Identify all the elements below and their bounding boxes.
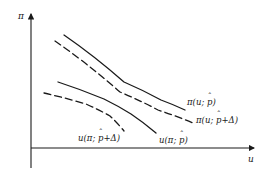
label-u-baseline-hat-accent: ˆ	[180, 131, 184, 139]
x-axis-label: u	[248, 155, 254, 164]
label-pi-shifted-hat-accent: ˆ	[217, 111, 221, 119]
diagram-canvas	[0, 0, 267, 173]
label-u-baseline: u(π; pˆ)	[159, 136, 188, 145]
label-u-baseline-phat: pˆ	[179, 136, 184, 145]
y-axis-label: π	[18, 12, 24, 21]
label-u-baseline-suffix: )	[184, 135, 187, 145]
label-pi-baseline-prefix: π(u;	[187, 97, 207, 107]
curve-iso-profit-baseline	[64, 35, 185, 110]
label-pi-baseline-hat-accent: ˆ	[208, 93, 212, 101]
label-u-shifted-prefix: u(π;	[78, 133, 98, 143]
label-pi-shifted-suffix: +Δ)	[221, 115, 238, 125]
label-pi-baseline-suffix: )	[212, 97, 215, 107]
label-pi-shifted-prefix: π(u;	[196, 115, 216, 125]
label-u-shifted-hat-accent: ˆ	[99, 129, 103, 137]
label-u-shifted-suffix: +Δ)	[103, 133, 120, 143]
label-u-shifted-phat: pˆ	[98, 134, 103, 143]
label-pi-shifted: π(u; pˆ+Δ)	[196, 116, 238, 125]
label-pi-shifted-phat: pˆ	[216, 116, 221, 125]
curves-group	[44, 35, 193, 133]
figure-container: π u π(u; pˆ)π(u; pˆ+Δ)u(π; pˆ+Δ)u(π; pˆ)	[0, 0, 267, 173]
label-pi-baseline-phat: pˆ	[207, 98, 212, 107]
label-u-shifted: u(π; pˆ+Δ)	[78, 134, 120, 143]
curve-indifference-shifted	[44, 93, 124, 131]
label-pi-baseline: π(u; pˆ)	[187, 98, 216, 107]
label-u-baseline-prefix: u(π;	[159, 135, 179, 145]
